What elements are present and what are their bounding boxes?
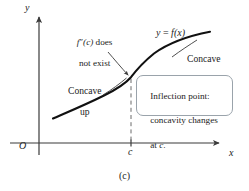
y-axis-label: y <box>25 2 29 13</box>
concave-up-label: Concave up <box>57 75 103 129</box>
second-derivative-note: f″(c) does not exist <box>61 27 119 78</box>
origin-label: O <box>19 140 26 151</box>
inflection-callout-text: Inflection point: concavity changes at c… <box>141 78 233 163</box>
function-label-equals: = <box>160 27 171 38</box>
second-derivative-note-arg: (c) <box>83 37 93 47</box>
concave-up-line2: up <box>80 106 90 117</box>
second-derivative-note-tail: does <box>93 37 112 47</box>
second-derivative-note-line2: not exist <box>79 58 110 68</box>
panel-caption: (c) <box>0 170 249 181</box>
x-tick-label-c: c <box>128 146 132 157</box>
callout-line3-prefix: at <box>150 140 159 150</box>
figure-panel: y x O c y = f(x) f″(c) does not exist Co… <box>0 0 249 191</box>
callout-line2: concavity changes <box>150 115 218 125</box>
concave-up-leader-line <box>103 78 127 95</box>
concave-up-line1: Concave <box>68 85 102 96</box>
concave-down-line1: Concave <box>187 53 221 64</box>
callout-line1: Inflection point: <box>150 91 209 101</box>
function-label-arg: (x) <box>174 27 185 38</box>
callout-line3-suffix: . <box>163 140 165 150</box>
